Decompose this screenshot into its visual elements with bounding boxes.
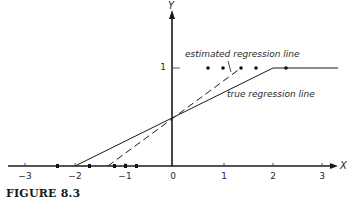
true-line-annotation: true regression line bbox=[227, 89, 315, 99]
y-axis-arrow-icon bbox=[169, 10, 175, 19]
true-regression-line bbox=[75, 68, 338, 166]
x-tick-label: −1 bbox=[118, 171, 131, 181]
x-tick-label: −3 bbox=[18, 171, 31, 181]
figure-caption: FIGURE 8.3 bbox=[6, 187, 80, 200]
x-tick-label: 2 bbox=[270, 171, 276, 181]
x-tick-label: 1 bbox=[221, 171, 227, 181]
x-axis-arrow-icon bbox=[330, 163, 338, 169]
y-axis-label: Y bbox=[168, 0, 174, 11]
estimated-line-annotation: estimated regression line bbox=[185, 49, 300, 59]
x-axis-label: X bbox=[340, 160, 347, 171]
annotation-pointer bbox=[228, 61, 231, 72]
x-tick-label: −2 bbox=[68, 171, 81, 181]
estimated-regression-line bbox=[108, 68, 241, 166]
x-tick-label: 0 bbox=[170, 171, 176, 181]
y-tick-label: 1 bbox=[160, 62, 166, 72]
x-tick-label: 3 bbox=[319, 171, 325, 181]
